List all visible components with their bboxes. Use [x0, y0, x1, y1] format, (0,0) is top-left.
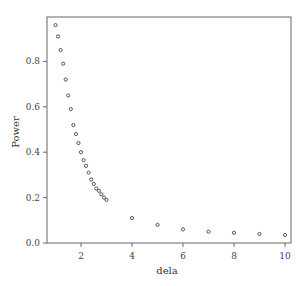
y-tick-label: 0.4	[26, 147, 41, 157]
data-point	[181, 228, 184, 231]
scatter-chart: 0.00.20.40.60.8 246810 dela Power	[0, 0, 306, 286]
data-point	[79, 151, 82, 154]
x-tick-label: 2	[78, 251, 84, 261]
y-axis: 0.00.20.40.60.8	[26, 56, 47, 248]
data-point	[85, 164, 88, 167]
data-point	[207, 230, 210, 233]
data-point	[97, 189, 100, 192]
y-tick-label: 0.6	[26, 102, 41, 112]
data-point	[105, 198, 108, 201]
x-axis: 246810	[78, 243, 291, 261]
data-point	[54, 23, 57, 26]
data-point	[258, 232, 261, 235]
data-point	[90, 178, 93, 181]
y-tick-label: 0.8	[26, 56, 41, 66]
data-point	[156, 223, 159, 226]
data-point	[92, 182, 95, 185]
data-point	[77, 142, 80, 145]
data-point	[87, 171, 90, 174]
data-point	[130, 216, 133, 219]
data-point	[67, 94, 70, 97]
y-axis-title: Power	[10, 116, 21, 148]
data-point	[232, 231, 235, 234]
x-tick-label: 4	[129, 251, 135, 261]
data-point	[74, 132, 77, 135]
data-point	[69, 107, 72, 110]
data-point	[82, 159, 85, 162]
data-point	[100, 193, 103, 196]
x-tick-label: 8	[231, 251, 237, 261]
y-tick-label: 0.0	[26, 238, 41, 248]
x-tick-label: 6	[180, 251, 186, 261]
data-point	[72, 123, 75, 126]
data-point	[56, 35, 59, 38]
y-tick-label: 0.2	[26, 193, 40, 203]
data-point	[64, 78, 67, 81]
x-tick-label: 10	[279, 251, 291, 261]
data-point	[62, 62, 65, 65]
data-point	[59, 48, 62, 51]
data-point	[283, 233, 286, 236]
x-axis-title: dela	[156, 265, 178, 276]
plot-frame	[47, 17, 291, 243]
data-points	[54, 23, 287, 236]
